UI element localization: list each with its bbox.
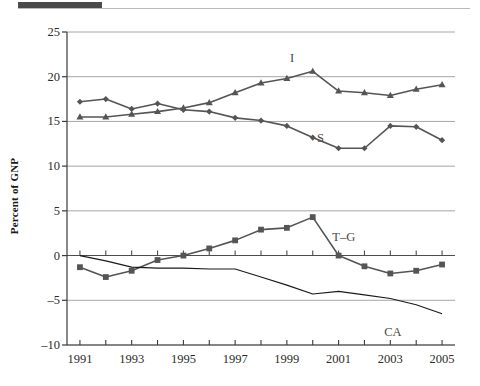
chart-figure: Percent of GNP 2520151050–5–10 199119931… [0, 0, 480, 386]
series-line-CA [80, 256, 442, 314]
x-tick-label: 1997 [223, 352, 248, 367]
data-point-marker [387, 271, 393, 277]
x-tick-label: 1993 [119, 352, 144, 367]
data-point-marker [284, 123, 290, 129]
data-point-marker [129, 268, 135, 274]
x-tick-label: 2001 [326, 352, 351, 367]
data-point-marker [258, 117, 264, 123]
series-line-I [80, 71, 442, 117]
data-point-marker [103, 274, 109, 280]
plot-area [0, 0, 480, 386]
x-tick-label: 1999 [274, 352, 299, 367]
data-point-marker [206, 246, 212, 252]
data-point-marker [439, 262, 445, 268]
data-point-marker [362, 263, 368, 269]
data-point-marker [77, 99, 83, 105]
data-point-marker [336, 253, 342, 259]
x-tick-label: 1995 [171, 352, 196, 367]
data-point-marker [181, 253, 187, 259]
series-label-TG: T–G [332, 229, 355, 244]
data-point-marker [232, 115, 238, 121]
series-line-S [80, 99, 442, 148]
data-point-marker [103, 96, 109, 102]
data-point-marker [413, 124, 419, 130]
data-point-marker [77, 264, 83, 270]
x-tick-label: 1991 [67, 352, 92, 367]
series-label-CA: CA [384, 324, 401, 339]
data-point-marker [336, 145, 342, 151]
data-point-marker [309, 68, 316, 74]
data-point-marker [206, 108, 212, 114]
data-point-marker [129, 106, 135, 112]
series-label-I: I [290, 50, 294, 65]
data-point-marker [232, 237, 238, 243]
x-tick-label: 2003 [378, 352, 403, 367]
data-point-marker [258, 227, 264, 233]
data-point-marker [310, 214, 316, 220]
data-point-marker [155, 257, 161, 263]
data-point-marker [284, 225, 290, 231]
data-point-marker [439, 81, 446, 87]
data-point-marker [310, 134, 316, 140]
x-tick-label: 2005 [430, 352, 455, 367]
data-point-marker [154, 100, 160, 106]
data-point-marker [413, 268, 419, 274]
data-point-marker [439, 137, 445, 143]
series-label-S: S [317, 130, 324, 145]
